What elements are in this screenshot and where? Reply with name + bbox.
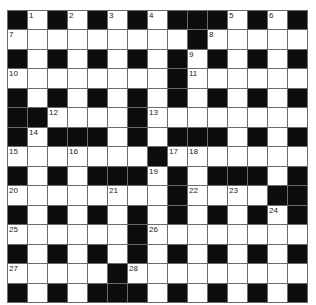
answer-cell[interactable] <box>68 89 87 107</box>
answer-cell[interactable] <box>168 108 187 126</box>
answer-cell[interactable] <box>208 186 227 204</box>
answer-cell[interactable] <box>68 264 87 282</box>
answer-cell[interactable] <box>168 264 187 282</box>
answer-cell[interactable] <box>108 108 127 126</box>
answer-cell[interactable] <box>68 167 87 185</box>
answer-cell[interactable] <box>88 186 107 204</box>
answer-cell[interactable] <box>148 264 167 282</box>
answer-cell[interactable] <box>248 225 267 243</box>
answer-cell[interactable] <box>108 206 127 224</box>
answer-cell[interactable] <box>288 69 307 87</box>
answer-cell[interactable] <box>48 147 67 165</box>
answer-cell[interactable] <box>68 108 87 126</box>
answer-cell[interactable] <box>248 108 267 126</box>
answer-cell[interactable] <box>28 147 47 165</box>
answer-cell[interactable] <box>148 30 167 48</box>
answer-cell[interactable] <box>228 108 247 126</box>
answer-cell[interactable] <box>168 30 187 48</box>
answer-cell[interactable]: 2 <box>68 11 87 29</box>
answer-cell[interactable] <box>108 50 127 68</box>
answer-cell[interactable] <box>228 245 247 263</box>
answer-cell[interactable]: 11 <box>188 69 207 87</box>
answer-cell[interactable] <box>268 225 287 243</box>
answer-cell[interactable] <box>88 108 107 126</box>
answer-cell[interactable] <box>108 89 127 107</box>
answer-cell[interactable]: 23 <box>228 186 247 204</box>
answer-cell[interactable] <box>148 69 167 87</box>
answer-cell[interactable] <box>248 69 267 87</box>
answer-cell[interactable] <box>208 225 227 243</box>
answer-cell[interactable] <box>188 167 207 185</box>
answer-cell[interactable] <box>28 50 47 68</box>
answer-cell[interactable]: 26 <box>148 225 167 243</box>
answer-cell[interactable] <box>28 186 47 204</box>
answer-cell[interactable] <box>188 89 207 107</box>
answer-cell[interactable] <box>28 89 47 107</box>
answer-cell[interactable]: 24 <box>268 206 287 224</box>
answer-cell[interactable] <box>68 30 87 48</box>
answer-cell[interactable] <box>48 264 67 282</box>
answer-cell[interactable]: 10 <box>8 69 27 87</box>
answer-cell[interactable] <box>68 50 87 68</box>
answer-cell[interactable] <box>268 30 287 48</box>
answer-cell[interactable] <box>48 69 67 87</box>
answer-cell[interactable] <box>228 147 247 165</box>
answer-cell[interactable] <box>28 245 47 263</box>
answer-cell[interactable] <box>68 245 87 263</box>
answer-cell[interactable]: 3 <box>108 11 127 29</box>
answer-cell[interactable] <box>108 147 127 165</box>
answer-cell[interactable] <box>88 147 107 165</box>
answer-cell[interactable] <box>108 245 127 263</box>
answer-cell[interactable] <box>148 186 167 204</box>
answer-cell[interactable]: 7 <box>8 30 27 48</box>
answer-cell[interactable]: 8 <box>208 30 227 48</box>
answer-cell[interactable] <box>208 108 227 126</box>
answer-cell[interactable]: 5 <box>228 11 247 29</box>
answer-cell[interactable]: 6 <box>268 11 287 29</box>
answer-cell[interactable] <box>28 30 47 48</box>
answer-cell[interactable]: 20 <box>8 186 27 204</box>
answer-cell[interactable] <box>228 284 247 302</box>
answer-cell[interactable]: 21 <box>108 186 127 204</box>
answer-cell[interactable] <box>228 30 247 48</box>
answer-cell[interactable] <box>228 264 247 282</box>
answer-cell[interactable] <box>188 284 207 302</box>
answer-cell[interactable] <box>48 30 67 48</box>
answer-cell[interactable] <box>188 245 207 263</box>
answer-cell[interactable] <box>68 206 87 224</box>
answer-cell[interactable] <box>168 225 187 243</box>
answer-cell[interactable]: 1 <box>28 11 47 29</box>
answer-cell[interactable] <box>28 264 47 282</box>
answer-cell[interactable]: 9 <box>188 50 207 68</box>
answer-cell[interactable] <box>108 30 127 48</box>
answer-cell[interactable] <box>248 30 267 48</box>
answer-cell[interactable] <box>268 245 287 263</box>
answer-cell[interactable] <box>148 206 167 224</box>
answer-cell[interactable] <box>228 69 247 87</box>
answer-cell[interactable]: 22 <box>188 186 207 204</box>
answer-cell[interactable] <box>208 147 227 165</box>
answer-cell[interactable] <box>68 284 87 302</box>
answer-cell[interactable] <box>268 108 287 126</box>
answer-cell[interactable] <box>128 147 147 165</box>
answer-cell[interactable] <box>28 284 47 302</box>
answer-cell[interactable] <box>148 128 167 146</box>
answer-cell[interactable]: 25 <box>8 225 27 243</box>
answer-cell[interactable] <box>148 245 167 263</box>
answer-cell[interactable]: 12 <box>48 108 67 126</box>
answer-cell[interactable] <box>288 147 307 165</box>
answer-cell[interactable]: 19 <box>148 167 167 185</box>
answer-cell[interactable]: 13 <box>148 108 167 126</box>
answer-cell[interactable] <box>188 225 207 243</box>
answer-cell[interactable] <box>148 284 167 302</box>
answer-cell[interactable] <box>248 147 267 165</box>
answer-cell[interactable] <box>188 264 207 282</box>
answer-cell[interactable] <box>88 264 107 282</box>
answer-cell[interactable] <box>148 89 167 107</box>
answer-cell[interactable] <box>268 69 287 87</box>
answer-cell[interactable]: 17 <box>168 147 187 165</box>
answer-cell[interactable] <box>228 206 247 224</box>
answer-cell[interactable] <box>28 206 47 224</box>
answer-cell[interactable] <box>128 30 147 48</box>
answer-cell[interactable] <box>208 69 227 87</box>
